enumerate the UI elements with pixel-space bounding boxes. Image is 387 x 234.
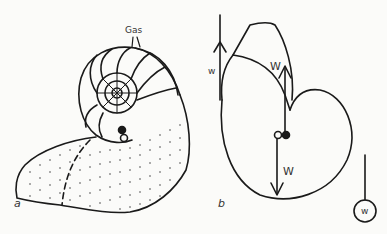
lower-force-label: W	[283, 165, 294, 178]
shell-b-outline	[221, 90, 352, 199]
panel-a-label: a	[14, 197, 21, 210]
hanging-weight-label: w	[361, 206, 368, 216]
nautilus-diagram: Gas a b w W W w	[0, 0, 387, 234]
panel-b-label: b	[218, 197, 225, 210]
small-weight-label: w	[208, 66, 215, 76]
upper-force-label: W	[270, 60, 281, 73]
water-stipple	[29, 124, 181, 210]
gas-label: Gas	[125, 25, 142, 35]
